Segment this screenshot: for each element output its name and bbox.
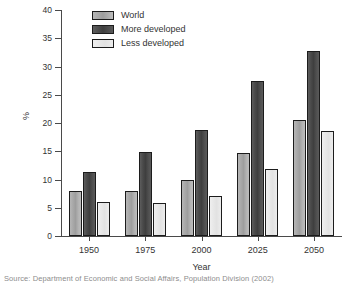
bar-more-developed-1950 (83, 172, 96, 236)
x-axis-title: Year (61, 262, 342, 272)
y-axis-tick-label: 35 (26, 34, 52, 43)
bar-world-2025 (237, 153, 250, 236)
legend-item-more: More developed (92, 23, 222, 35)
bar-chart-figure: % 0510152025303540 19501975200020252050 … (0, 0, 350, 284)
y-axis-tick-label: 5 (26, 204, 52, 213)
y-axis-tick-label: 0 (26, 232, 52, 241)
x-axis-tick-label: 1975 (115, 245, 175, 255)
y-axis-tick-label: 40 (26, 6, 52, 15)
x-axis-tick-label: 2000 (172, 245, 232, 255)
bar-world-1950 (69, 191, 82, 236)
y-axis-tick-label: 20 (26, 119, 52, 128)
x-axis-tick (202, 236, 203, 241)
y-axis-tick (55, 236, 62, 237)
y-axis-tick-label: 15 (26, 147, 52, 156)
legend-item-label: Less developed (121, 38, 184, 48)
bar-more-developed-2050 (307, 51, 320, 236)
figure-caption: Source: Department of Economic and Socia… (0, 276, 350, 284)
y-axis-tick-label: 10 (26, 176, 52, 185)
legend-item-label: World (121, 10, 144, 20)
legend-swatch-icon-less (92, 39, 114, 48)
bar-world-1975 (125, 191, 138, 236)
x-axis-tick (258, 236, 259, 241)
bar-more-developed-2000 (195, 130, 208, 236)
legend-swatch-icon-more (92, 25, 114, 34)
x-axis-tick (314, 236, 315, 241)
bar-more-developed-2025 (251, 81, 264, 236)
bar-less-developed-1975 (153, 203, 166, 236)
bar-less-developed-1950 (97, 202, 110, 236)
x-axis-tick-label: 2050 (284, 245, 344, 255)
bar-less-developed-2000 (209, 196, 222, 236)
legend-item-less: Less developed (92, 37, 222, 49)
y-axis-tick-label: 30 (26, 63, 52, 72)
legend-swatch-icon-world (92, 11, 114, 20)
bar-more-developed-1975 (139, 152, 152, 236)
x-axis-tick-label: 1950 (59, 245, 119, 255)
bar-world-2000 (181, 180, 194, 237)
figure-caption-text: Source: Department of Economic and Socia… (4, 276, 348, 283)
legend-item-label: More developed (121, 24, 186, 34)
y-axis-tick-label: 25 (26, 91, 52, 100)
bar-less-developed-2050 (321, 131, 334, 236)
x-axis-tick (89, 236, 90, 241)
chart-legend: WorldMore developedLess developed (92, 9, 222, 51)
x-axis-tick-label: 2025 (228, 245, 288, 255)
x-axis-tick (145, 236, 146, 241)
legend-item-world: World (92, 9, 222, 21)
bar-less-developed-2025 (265, 169, 278, 236)
bar-world-2050 (293, 120, 306, 236)
